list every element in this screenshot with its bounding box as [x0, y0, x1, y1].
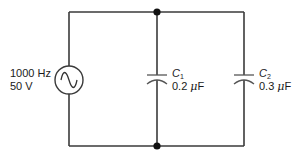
wires — [69, 12, 244, 146]
circuit-diagram: 1000 Hz 50 V C1 0.2 μF C2 0.3 μF — [0, 0, 301, 161]
source-voltage-label: 50 V — [10, 80, 33, 92]
c1-value-label: 0.2 μF — [172, 80, 205, 93]
source-frequency-label: 1000 Hz — [10, 67, 51, 79]
c2-name-label: C2 — [259, 67, 271, 80]
c2-value-label: 0.3 μF — [259, 80, 292, 93]
junction-top — [153, 8, 160, 15]
c1-name-label: C1 — [172, 67, 184, 80]
ac-source — [55, 66, 83, 94]
junction-bottom — [153, 142, 160, 149]
